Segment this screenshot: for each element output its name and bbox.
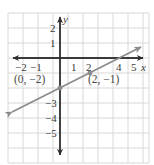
x-tick-label-minus-2: −2 xyxy=(15,62,27,73)
x-tick-label-5: 5 xyxy=(131,62,137,73)
y-tick-label-2: 2 xyxy=(50,23,56,34)
y-tick-label-minus-3: −3 xyxy=(45,98,57,109)
y-tick-label-minus-4: −4 xyxy=(45,113,57,124)
y-tick-label-1: 1 xyxy=(50,38,56,49)
x-axis-name-label: x xyxy=(141,62,146,73)
x-tick-label-4: 4 xyxy=(116,62,122,73)
x-tick-label-2: 2 xyxy=(86,62,92,73)
point-label-0-neg2: (0, −2) xyxy=(14,74,45,86)
x-tick-label-minus-1: −1 xyxy=(30,62,42,73)
grid-lines xyxy=(8,13,149,163)
y-axis-name-label: y xyxy=(63,14,68,25)
point-label-2-neg1: (2, −1) xyxy=(88,74,119,86)
data-point-0-neg2 xyxy=(58,86,63,91)
y-tick-label-minus-5: −5 xyxy=(45,128,57,139)
coordinate-plane-figure: −2 −1 1 2 4 5 2 1 −3 −4 −5 y x (0, −2) (… xyxy=(0,0,154,165)
x-tick-label-1: 1 xyxy=(71,62,77,73)
